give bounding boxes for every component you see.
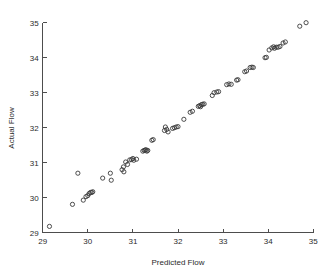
tick-labels-group: 2930313233343529303132333435 [30, 19, 319, 246]
data-point-marker [151, 138, 155, 142]
x-tick-label: 35 [309, 237, 318, 246]
x-axis-title: Predicted Flow [152, 258, 205, 267]
y-tick-label: 32 [30, 124, 39, 133]
scatter-plot-figure: 2930313233343529303132333435 Predicted F… [0, 0, 335, 271]
data-point-marker [182, 117, 186, 121]
x-tick-label: 30 [83, 237, 92, 246]
data-point-marker [109, 178, 113, 182]
y-tick-label: 30 [30, 194, 39, 203]
plot-canvas: 2930313233343529303132333435 Predicted F… [0, 0, 335, 271]
data-point-marker [108, 171, 112, 175]
data-point-marker [76, 171, 80, 175]
x-tick-label: 33 [219, 237, 228, 246]
data-point-marker [101, 176, 105, 180]
x-tick-label: 32 [174, 237, 183, 246]
y-tick-label: 34 [30, 54, 39, 63]
data-markers-group [47, 21, 308, 229]
data-point-marker [47, 224, 51, 228]
y-tick-label: 33 [30, 89, 39, 98]
data-point-marker [70, 202, 74, 206]
x-tick-label: 29 [38, 237, 47, 246]
data-point-marker [304, 21, 308, 25]
y-axis-title: Actual Flow [7, 107, 16, 149]
x-tick-label: 34 [264, 237, 273, 246]
y-tick-label: 31 [30, 159, 39, 168]
y-tick-label: 35 [30, 19, 39, 28]
y-tick-label: 29 [30, 229, 39, 238]
data-point-marker [298, 24, 302, 28]
x-tick-label: 31 [128, 237, 137, 246]
